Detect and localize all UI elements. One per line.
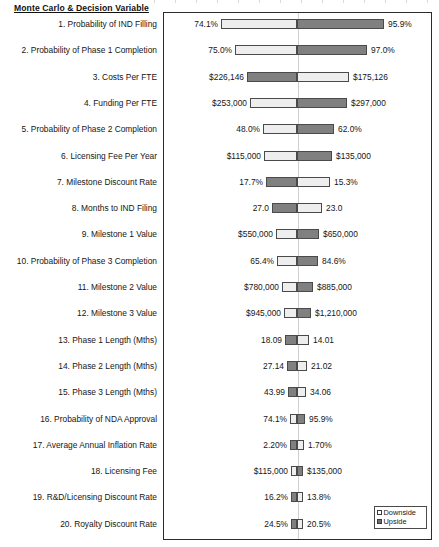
bar-right-upside: [297, 151, 332, 161]
row-bars: $115,000$135,000: [163, 149, 432, 163]
row-label: 8. Months to IND Filing: [0, 201, 157, 215]
tornado-row: 7. Milestone Discount Rate17.7%15.3%: [0, 175, 439, 189]
bar-right-downside: [297, 203, 322, 213]
bar-left-downside: [221, 19, 297, 29]
ruler-tick: [196, 0, 197, 3]
center-reference-line: [298, 13, 299, 539]
ruler-tick: [427, 0, 428, 3]
row-label: 19. R&D/Licensing Discount Rate: [0, 490, 157, 504]
tornado-row: 17. Average Annual Inflation Rate2.20%1.…: [0, 438, 439, 452]
bar-left-upside: [272, 203, 297, 213]
bar-right-downside: [297, 492, 303, 502]
row-value-right: 23.0: [326, 201, 342, 215]
tornado-row: 11. Milestone 2 Value$780,000$885,000: [0, 280, 439, 294]
bar-right-upside: [297, 414, 305, 424]
row-label: 14. Phase 2 Length (Mths): [0, 359, 157, 373]
row-bars: 75.0%97.0%: [163, 43, 432, 57]
row-value-left: $115,000: [254, 464, 288, 478]
row-label: 20. Royalty Discount Rate: [0, 517, 157, 531]
row-value-left: 16.2%: [264, 490, 288, 504]
bar-right-upside: [297, 98, 347, 108]
ruler-tick: [385, 0, 386, 3]
tornado-row: 13. Phase 1 Length (Mths)18.0914.01: [0, 333, 439, 347]
ruler-tick: [280, 0, 281, 3]
row-value-right: 14.01: [313, 333, 334, 347]
row-bars: 65.4%84.6%: [163, 254, 432, 268]
ruler-tick: [217, 0, 218, 3]
bar-left-upside: [287, 361, 297, 371]
tornado-row: 10. Probability of Phase 3 Completion65.…: [0, 254, 439, 268]
row-value-right: 95.9%: [309, 412, 333, 426]
row-value-left: 43.99: [264, 385, 285, 399]
row-bars: 17.7%15.3%: [163, 175, 432, 189]
legend-label-downside: Downside: [384, 508, 416, 517]
row-bars: $780,000$885,000: [163, 280, 432, 294]
row-value-right: 62.0%: [338, 122, 362, 136]
row-bars: $115,000$135,000: [163, 464, 432, 478]
row-bars: $226,146$175,126: [163, 70, 432, 84]
tornado-row: 19. R&D/Licensing Discount Rate16.2%13.8…: [0, 490, 439, 504]
bar-left-downside: [235, 45, 297, 55]
bar-left-upside: [247, 72, 297, 82]
row-bars: $550,000$650,000: [163, 227, 432, 241]
plot-frame: [163, 12, 432, 540]
bar-left-downside: [284, 308, 297, 318]
row-bars: 27.1421.02: [163, 359, 432, 373]
row-bars: 74.1%95.9%: [163, 412, 432, 426]
bar-right-downside: [297, 440, 304, 450]
tornado-chart: Monte Carlo & Decision Variable 1. Proba…: [0, 0, 439, 547]
row-bars: 18.0914.01: [163, 333, 432, 347]
row-label: 15. Phase 3 Length (Mths): [0, 385, 157, 399]
row-label: 1. Probability of IND Filling: [0, 17, 157, 31]
row-value-left: 48.0%: [236, 122, 260, 136]
bar-right-downside: [297, 387, 306, 397]
row-bars: 16.2%13.8%: [163, 490, 432, 504]
row-value-right: 34.06: [310, 385, 331, 399]
row-value-right: $297,000: [351, 96, 386, 110]
row-value-left: 27.14: [263, 359, 284, 373]
tornado-row: 14. Phase 2 Length (Mths)27.1421.02: [0, 359, 439, 373]
ruler-artifact: [150, 0, 439, 4]
row-value-right: $885,000: [317, 280, 352, 294]
bar-right-upside: [297, 45, 367, 55]
row-label: 2. Probability of Phase 1 Completion: [0, 43, 157, 57]
ruler-tick: [259, 0, 260, 3]
row-label: 12. Milestone 3 Value: [0, 306, 157, 320]
row-bars: 48.0%62.0%: [163, 122, 432, 136]
bar-left-upside: [285, 335, 297, 345]
row-value-left: $226,146: [209, 70, 244, 84]
bar-right-downside: [297, 361, 307, 371]
bar-left-upside: [266, 177, 297, 187]
legend-label-upside: Upside: [384, 517, 407, 526]
row-value-right: $650,000: [323, 227, 358, 241]
row-value-left: $780,000: [244, 280, 279, 294]
ruler-tick: [175, 0, 176, 3]
tornado-row: 5. Probability of Phase 2 Completion48.0…: [0, 122, 439, 136]
row-value-right: 13.8%: [307, 490, 331, 504]
row-value-left: $550,000: [238, 227, 273, 241]
row-value-left: $253,000: [212, 96, 247, 110]
row-value-right: 21.02: [311, 359, 332, 373]
row-value-left: 74.1%: [194, 17, 218, 31]
row-value-left: 65.4%: [250, 254, 274, 268]
bar-left-upside: [288, 387, 297, 397]
bar-right-upside: [297, 124, 334, 134]
row-value-right: 95.9%: [388, 17, 412, 31]
row-label: 17. Average Annual Inflation Rate: [0, 438, 157, 452]
bar-left-downside: [282, 282, 297, 292]
bar-left-downside: [264, 151, 297, 161]
row-value-right: 97.0%: [371, 43, 395, 57]
row-label: 5. Probability of Phase 2 Completion: [0, 122, 157, 136]
bar-right-downside: [297, 72, 349, 82]
tornado-row: 3. Costs Per FTE$226,146$175,126: [0, 70, 439, 84]
bar-left-downside: [276, 229, 297, 239]
chart-legend: Downside Upside: [374, 506, 427, 529]
page-title: Monte Carlo & Decision Variable: [14, 3, 160, 13]
legend-item-downside: Downside: [377, 508, 424, 517]
downside-swatch-icon: [377, 510, 382, 515]
row-label: 6. Licensing Fee Per Year: [0, 149, 157, 163]
row-value-left: 17.7%: [239, 175, 263, 189]
row-label: 18. Licensing Fee: [0, 464, 157, 478]
tornado-row: 6. Licensing Fee Per Year$115,000$135,00…: [0, 149, 439, 163]
row-value-right: $135,000: [307, 464, 342, 478]
